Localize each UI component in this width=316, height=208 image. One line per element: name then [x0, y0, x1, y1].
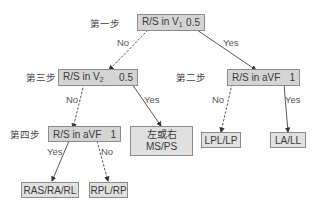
decision-node-avf-step4: R/S in aVF 1 — [48, 126, 121, 142]
edge-n3-no — [73, 84, 84, 128]
leaf-label: RAS/RA/RL — [24, 183, 77, 198]
step-label-4: 第四步 — [10, 127, 40, 141]
node-threshold: 1 — [110, 127, 116, 142]
edge-label-n2-yes: Yes — [285, 94, 301, 105]
node-lead: R/S in aVF — [232, 70, 280, 85]
leaf-la-ll: LA/LL — [270, 132, 306, 148]
node-lead: R/S in aVF — [53, 127, 101, 142]
node-threshold: 1 — [289, 70, 295, 85]
decision-node-v1: R/S in V1 0.5 — [137, 14, 205, 31]
edge-n1-yes — [197, 30, 256, 70]
edge-label-n2-no: No — [212, 94, 224, 105]
leaf-ms-ps: 左或右 MS/PS — [130, 126, 193, 156]
edge-label-n3-no: No — [66, 94, 78, 105]
decision-node-avf-step2: R/S in aVF 1 — [227, 69, 300, 86]
node-lead: R/S in V2 — [63, 69, 104, 87]
step-label-2: 第二步 — [176, 70, 206, 84]
node-lead: R/S in V1 — [142, 14, 183, 32]
leaf-line-2: MS/PS — [146, 141, 177, 153]
edge-label-n4-yes: Yes — [47, 146, 63, 157]
leaf-rpl-rp: RPL/RP — [89, 182, 128, 198]
leaf-label: RPL/RP — [90, 183, 126, 198]
leaf-label: LPL/LP — [205, 133, 238, 148]
node-threshold: 0.5 — [119, 70, 133, 85]
edge-label-n4-no: No — [101, 146, 113, 157]
leaf-label: LA/LL — [275, 133, 301, 148]
edge-label-n3-yes: Yes — [144, 94, 160, 105]
edge-n3-yes — [132, 84, 161, 126]
step-label-1: 第一步 — [90, 16, 120, 30]
edge-n2-no — [221, 84, 232, 132]
leaf-lpl-lp: LPL/LP — [201, 132, 241, 148]
node-threshold: 0.5 — [186, 15, 200, 30]
edge-label-n1-no: No — [117, 37, 129, 48]
edge-n2-yes — [284, 84, 288, 132]
edge-label-n1-yes: Yes — [223, 37, 239, 48]
decision-node-v2: R/S in V2 0.5 — [58, 69, 138, 86]
step-label-3: 第三步 — [26, 70, 56, 84]
leaf-ras-ra-rl: RAS/RA/RL — [21, 182, 79, 198]
leaf-line-1: 左或右 — [147, 129, 177, 141]
edge-n1-no — [109, 30, 148, 70]
